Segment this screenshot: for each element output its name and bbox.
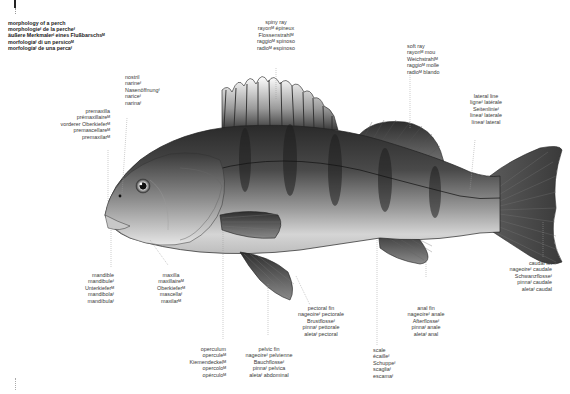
label-spiny-ray: spiny ray rayonᴹ épineux Flossenstrahlᴹ …	[248, 19, 304, 51]
label-soft-ray: soft ray rayonᴹ mou Weichstrahlᴹ raggioᴹ…	[407, 43, 439, 75]
caudal-fin	[490, 146, 562, 264]
label-line: escamaᶠ	[373, 373, 396, 379]
title-de: äußere Merkmaleᵖˡ eines Flußbarschsᴹ	[8, 32, 105, 38]
label-scale: scale écailleᶠ Schuppeᶠ scagliaᶠ escamaᶠ	[373, 347, 396, 379]
label-line: mandíbulaᶠ	[50, 298, 114, 304]
label-line: maxilarᴹ	[145, 298, 197, 304]
label-pectoral-fin: pectoral fin nageoireᶠ pectorale Brustfl…	[290, 305, 352, 337]
label-lateral-line: lateral line ligneᶠ latérale Seitenlinie…	[460, 93, 512, 125]
label-line: nageoireᶠ pectorale	[290, 311, 352, 317]
label-premaxilla: premaxilla prémaxillaireᴹ vorderer Oberk…	[36, 108, 110, 140]
label-anal-fin: anal fin nageoireᶠ anale Afterflosseᶠ pi…	[398, 305, 454, 337]
label-line: rayonᴹ mou	[407, 49, 439, 55]
label-maxilla: maxilla maxillaireᴹ Oberkieferᴹ mascella…	[145, 272, 197, 304]
label-line: nageoireᶠ pelvienne	[236, 352, 302, 358]
label-caudal-fin: caudal fin nageoireᶠ caudale Schwanzflos…	[494, 260, 552, 292]
perch-illustration	[0, 0, 570, 394]
label-operculum: operculum operculeᴹ Kiemendeckelᴹ operco…	[172, 346, 226, 378]
spiny-dorsal-fin	[222, 76, 338, 130]
diagram-title: morphology of a perch morphologieᶠ de la…	[8, 20, 105, 51]
label-line: líneaᶠ lateral	[460, 119, 512, 125]
label-line: premaxilarᴹ	[36, 134, 110, 140]
pelvic-fin	[240, 252, 294, 300]
label-line: radioᴹ blando	[407, 69, 439, 75]
nostril	[119, 195, 122, 198]
label-line: aletaᶠ abdominal	[236, 372, 302, 378]
eye	[136, 179, 150, 193]
label-line: narinaᶠ	[125, 100, 160, 106]
label-mandible: mandible mandibuleᶠ Unterkieferᴹ mandibo…	[50, 272, 114, 304]
title-es: morfologíaᶠ de una percaᶠ	[8, 45, 105, 51]
label-pelvic-fin: pelvic fin nageoireᶠ pelvienne Bauchflos…	[236, 346, 302, 378]
label-line: aletaᶠ caudal	[494, 286, 552, 292]
label-line: opérculoᴹ	[172, 372, 226, 378]
label-line: aletaᶠ anal	[398, 331, 454, 337]
label-line: radioᴹ espinoso	[248, 45, 304, 51]
perch-morphology-diagram: morphology of a perch morphologieᶠ de la…	[0, 0, 570, 394]
label-nostril: nostril narineᶠ Nasenöffnungᶠ nariceᶠ na…	[125, 74, 160, 106]
label-line: aletaᶠ pectoral	[290, 331, 352, 337]
label-line: raggioᴹ molle	[407, 62, 439, 68]
